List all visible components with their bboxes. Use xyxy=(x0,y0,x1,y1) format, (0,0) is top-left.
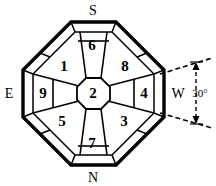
zone-label-1: 1 xyxy=(60,58,68,74)
zone-label-7: 7 xyxy=(88,135,96,151)
compass-label-east: E xyxy=(5,86,14,101)
zone-label-9: 9 xyxy=(39,85,47,101)
zone-label-6: 6 xyxy=(88,37,96,53)
compass-label-west: W xyxy=(171,86,185,101)
compass-label-south: S xyxy=(89,3,97,18)
diagram-canvas: 1 2 3 4 5 6 7 8 9 S N E W xyxy=(0,0,216,186)
zone-label-3: 3 xyxy=(120,113,128,129)
zone-label-4: 4 xyxy=(140,85,148,101)
angle-leader-lower xyxy=(160,113,212,128)
zone-label-2: 2 xyxy=(89,85,97,101)
angle-leader-upper xyxy=(160,58,212,74)
zone-label-8: 8 xyxy=(121,58,129,74)
compass-label-north: N xyxy=(88,170,98,185)
octagon-zone-svg: 1 2 3 4 5 6 7 8 9 S N E W xyxy=(0,0,216,186)
angle-annotation: 30° xyxy=(160,58,212,128)
zone-label-5: 5 xyxy=(58,113,66,129)
angle-label: 30° xyxy=(192,87,207,99)
